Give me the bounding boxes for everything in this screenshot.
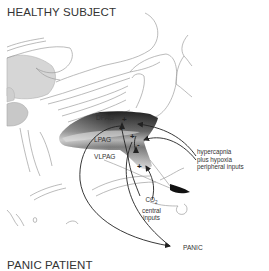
label-central-inputs: CO2 central inputs xyxy=(142,196,161,222)
label-peripheral-inputs: hypercapnia plus hypoxia peripheral inpu… xyxy=(197,148,244,171)
panel-title-panic-patient: PANIC PATIENT xyxy=(7,259,93,271)
sign-lpag-plus: + xyxy=(130,133,135,141)
gray-structures xyxy=(7,55,55,126)
sign-vlpag-plus: + xyxy=(137,163,142,171)
label-vlpag: VLPAG xyxy=(94,153,116,160)
sign-lpag-minus: - xyxy=(137,141,140,149)
sign-dpag-plus: + xyxy=(122,116,127,124)
dark-wedge xyxy=(170,184,190,193)
sign-dpag-minus: - xyxy=(120,125,123,133)
label-panic-output: PANIC xyxy=(183,244,203,252)
label-dpag: DPAG xyxy=(96,114,114,121)
label-lpag: LPAG xyxy=(94,136,111,143)
